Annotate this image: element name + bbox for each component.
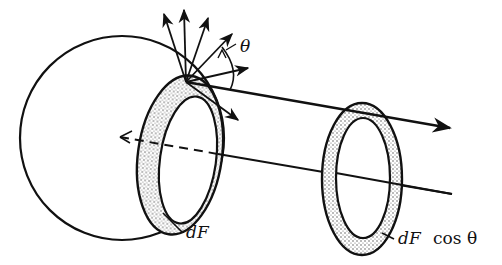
cos-theta-label: cos θ [433,228,477,248]
dF-right-label: dF [398,228,422,248]
projection-direction-arrow [186,82,450,128]
theta-leader [226,44,236,50]
surface-element-ring-left [127,70,232,240]
theta-label: θ [240,36,250,56]
diagram-canvas: θ dF dF cos θ [0,0,502,265]
dF-left-label: dF [186,222,210,242]
projected-ring-right [322,103,402,255]
